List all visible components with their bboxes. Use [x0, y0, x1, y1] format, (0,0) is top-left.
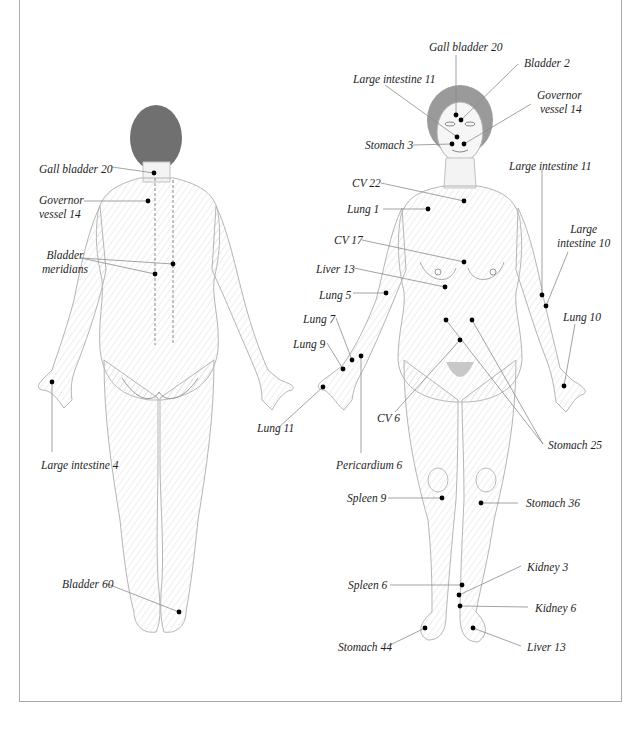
label-lung7: Lung 7 — [303, 312, 335, 326]
label-lung10: Lung 10 — [563, 310, 601, 324]
label-lung9: Lung 9 — [293, 337, 325, 351]
label-sp6: Spleen 6 — [348, 578, 387, 592]
acupoint-dot-bladder-meridians — [153, 272, 158, 277]
back-left-leg — [104, 360, 160, 632]
leader-line-lung7 — [336, 318, 352, 360]
label-bl2: Bladder 2 — [524, 56, 570, 70]
acupoint-dot-st25 — [470, 318, 475, 323]
acupoint-dot-lung5 — [384, 291, 389, 296]
label-gv14: Governor vessel 14 — [39, 193, 84, 221]
acupoint-dot-cv17 — [462, 260, 467, 265]
label-st36: Stomach 36 — [526, 496, 580, 510]
label-cv17: CV 17 — [334, 233, 363, 247]
acupoint-dot-lung9 — [341, 367, 346, 372]
label-st44: Stomach 44 — [338, 640, 392, 654]
acupoint-dot-kidney3 — [457, 593, 462, 598]
label-lung1: Lung 1 — [347, 202, 379, 216]
label-lung11: Lung 11 — [257, 421, 294, 435]
label-li11-face: Large intestine 11 — [353, 72, 435, 86]
front-face — [437, 102, 483, 162]
acupoint-dot-lung7 — [350, 358, 355, 363]
acupoint-dot-st36 — [479, 501, 484, 506]
acupoint-dot-kidney6 — [458, 604, 463, 609]
back-right-leg — [160, 360, 214, 632]
acupoint-dot-cv22 — [462, 199, 467, 204]
acupoint-dot-li11-arm — [540, 293, 545, 298]
acupoint-dot-pericardium6 — [359, 354, 364, 359]
front-right-leg — [404, 360, 458, 640]
label-kidney6: Kidney 6 — [535, 601, 576, 615]
back-head-hair — [130, 105, 182, 171]
label-liver13-foot: Liver 13 — [527, 640, 566, 654]
label-gv14-front: Governor vessel 14 — [537, 88, 582, 116]
acupoint-dot-lung11 — [321, 385, 326, 390]
label-cv22: CV 22 — [352, 176, 381, 190]
back-torso — [96, 178, 219, 400]
acupoint-dot-gb20 — [152, 171, 157, 176]
acupoint-dot-li11-face — [455, 135, 460, 140]
acupoint-dot-liver13-foot — [471, 626, 476, 631]
acupoint-dot-li4 — [50, 380, 55, 385]
leader-line-li10 — [546, 252, 568, 306]
label-st3: Stomach 3 — [365, 138, 413, 152]
label-st25: Stomach 25 — [548, 438, 602, 452]
leader-line-st44 — [388, 628, 425, 646]
acupoint-dot-bl60 — [177, 610, 182, 615]
label-bladder-meridians: Bladder meridians — [42, 248, 88, 276]
label-gb20-front: Gall bladder 20 — [429, 40, 502, 54]
acupoint-dot-liver13-chest — [443, 285, 448, 290]
acupoint-dot-li10 — [544, 304, 549, 309]
acupoint-dot-gb20-front — [454, 113, 459, 118]
acupoint-dot-lung10 — [562, 384, 567, 389]
label-li10: Large intestine 10 — [557, 222, 610, 250]
label-cv6: CV 6 — [377, 411, 400, 425]
front-left-leg — [460, 360, 516, 642]
acupoint-dot-bladder-meridians — [171, 262, 176, 267]
label-liver13-chest: Liver 13 — [316, 262, 355, 276]
acupoint-dot-st25 — [444, 318, 449, 323]
label-gb20: Gall bladder 20 — [39, 162, 112, 176]
label-pericardium6: Pericardium 6 — [336, 458, 402, 472]
label-li11-arm: Large intestine 11 — [509, 159, 591, 173]
label-kidney3: Kidney 3 — [527, 560, 568, 574]
back-right-arm — [212, 206, 293, 410]
label-li4: Large intestine 4 — [41, 458, 119, 472]
back-left-arm — [38, 206, 106, 408]
leader-line-lung9 — [327, 343, 343, 369]
label-bl60: Bladder 60 — [62, 577, 113, 591]
acupoint-dot-sp9 — [440, 496, 445, 501]
leader-line-lung10 — [564, 324, 575, 386]
acupoint-dot-st3 — [450, 142, 455, 147]
label-lung5: Lung 5 — [319, 288, 351, 302]
acupoint-dot-st44 — [423, 626, 428, 631]
acupoint-dot-gv14-front — [462, 142, 467, 147]
label-sp9: Spleen 9 — [347, 491, 386, 505]
acupoint-dot-bl2 — [459, 118, 464, 123]
acupoint-dot-sp6 — [460, 583, 465, 588]
acupoint-dot-lung1 — [426, 207, 431, 212]
acupoint-dot-cv6 — [458, 338, 463, 343]
back-view-figure — [38, 105, 293, 632]
acupoint-dot-gv14 — [146, 199, 151, 204]
